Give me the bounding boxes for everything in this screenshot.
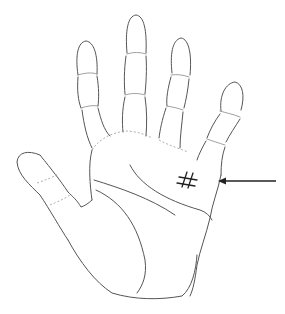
arrow-pointer <box>218 178 276 185</box>
heart-line <box>130 165 212 220</box>
ring-finger <box>159 38 191 148</box>
palm-top-crease <box>92 131 152 150</box>
palm-right-edge <box>190 175 221 296</box>
palm-bottom-edge <box>68 240 197 299</box>
index-finger <box>77 41 110 148</box>
hand-drawing <box>0 0 285 314</box>
grid-cross-mark <box>177 172 197 188</box>
life-line <box>96 190 146 293</box>
ring-base-crease <box>159 140 188 152</box>
little-finger <box>197 82 243 175</box>
middle-finger <box>122 15 146 136</box>
head-line <box>94 180 175 215</box>
palm-diagram <box>0 0 285 314</box>
thumb <box>17 150 92 240</box>
